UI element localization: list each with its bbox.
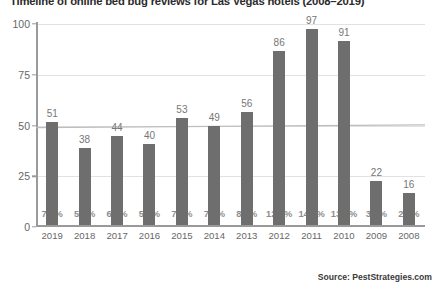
bar-value-label: 91	[338, 27, 349, 38]
bar-value-label: 38	[79, 134, 90, 145]
bar-value-label: 16	[403, 179, 414, 190]
bar[interactable]	[46, 122, 58, 226]
bar-value-label: 44	[111, 122, 122, 133]
bar-value-label: 86	[274, 37, 285, 48]
bar[interactable]	[241, 112, 253, 226]
bar[interactable]	[273, 51, 285, 226]
bar[interactable]	[111, 136, 123, 225]
bar-value-label: 22	[371, 167, 382, 178]
y-tick-label: 100	[2, 18, 30, 30]
bar-slot[interactable]: 9714.4%	[295, 22, 327, 225]
y-tick-label: 25	[2, 170, 30, 182]
bar-slot[interactable]: 9113.5%	[328, 22, 360, 225]
bar-value-label: 56	[241, 98, 252, 109]
x-tick-label: 2009	[360, 230, 392, 241]
x-tick-label: 2016	[133, 230, 165, 241]
bar-slot[interactable]: 8612.8%	[263, 22, 295, 225]
chart-container: Timeline of online bed bug reviews for L…	[0, 0, 440, 288]
x-tick-label: 2010	[328, 230, 360, 241]
bar[interactable]	[208, 126, 220, 225]
x-axis-line	[36, 225, 425, 227]
x-axis-labels: 2019201820172016201520142013201220112010…	[36, 230, 425, 241]
y-tick-label: 50	[2, 120, 30, 132]
bar-value-label: 49	[209, 112, 220, 123]
x-tick-label: 2008	[393, 230, 425, 241]
bar-slot[interactable]: 162.4%	[393, 22, 425, 225]
bar-value-label: 40	[144, 130, 155, 141]
y-tick-label: 0	[2, 221, 30, 233]
x-tick-label: 2019	[36, 230, 68, 241]
bar[interactable]	[338, 41, 350, 226]
bar[interactable]	[176, 118, 188, 226]
x-tick-label: 2012	[263, 230, 295, 241]
x-tick-label: 2015	[166, 230, 198, 241]
x-tick-label: 2017	[101, 230, 133, 241]
bar-slot[interactable]: 497.3%	[198, 22, 230, 225]
x-tick-label: 2011	[295, 230, 327, 241]
bar-slot[interactable]: 537.9%	[166, 22, 198, 225]
bar-slot[interactable]: 568.3%	[231, 22, 263, 225]
bar-slot[interactable]: 385.6%	[68, 22, 100, 225]
bar[interactable]	[306, 29, 318, 226]
bar[interactable]	[370, 181, 382, 226]
bar-slot[interactable]: 517.6%	[36, 22, 68, 225]
chart-title: Timeline of online bed bug reviews for L…	[10, 0, 435, 7]
y-tick-label: 75	[2, 69, 30, 81]
bar-value-label: 53	[176, 104, 187, 115]
bar-group: 517.6%385.6%446.5%405.9%537.9%497.3%568.…	[36, 22, 425, 225]
x-tick-label: 2018	[68, 230, 100, 241]
x-tick-label: 2014	[198, 230, 230, 241]
bar[interactable]	[403, 193, 415, 225]
bar-value-label: 97	[306, 15, 317, 26]
bar-slot[interactable]: 405.9%	[133, 22, 165, 225]
bar-slot[interactable]: 446.5%	[101, 22, 133, 225]
bar[interactable]	[143, 144, 155, 225]
bar[interactable]	[79, 148, 91, 225]
source-attribution: Source: PestStrategies.com	[318, 272, 432, 282]
bar-value-label: 51	[47, 108, 58, 119]
plot-area: 0255075100 517.6%385.6%446.5%405.9%537.9…	[36, 22, 425, 227]
bar-slot[interactable]: 223.3%	[360, 22, 392, 225]
x-tick-label: 2013	[231, 230, 263, 241]
